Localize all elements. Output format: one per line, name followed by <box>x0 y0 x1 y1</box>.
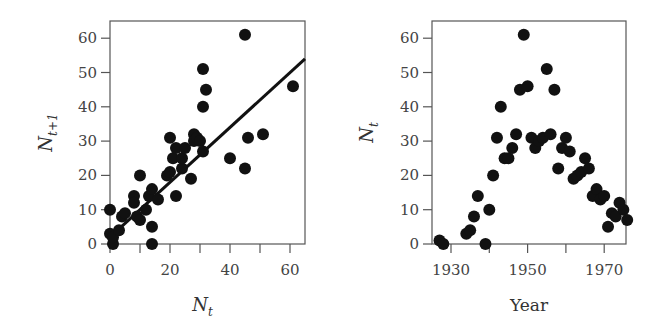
x-tick-label: 40 <box>220 261 239 279</box>
data-point <box>176 163 188 175</box>
data-point <box>176 152 188 164</box>
data-point <box>621 214 633 226</box>
data-point <box>197 101 209 113</box>
data-point <box>185 173 197 185</box>
data-point <box>224 152 236 164</box>
data-point <box>495 101 507 113</box>
data-point <box>200 84 212 96</box>
data-point <box>104 204 116 216</box>
data-point <box>506 142 518 154</box>
y-tick-label: 60 <box>400 29 419 47</box>
x-axis-label: Year <box>509 295 549 315</box>
data-point <box>128 197 140 209</box>
data-point <box>164 132 176 144</box>
data-point <box>170 190 182 202</box>
data-point <box>583 163 595 175</box>
y-tick-label: 0 <box>87 235 97 253</box>
y-tick-label: 60 <box>78 29 97 47</box>
data-point <box>472 190 484 202</box>
x-tick-label: 20 <box>160 261 179 279</box>
data-point <box>552 163 564 175</box>
data-point <box>239 163 251 175</box>
y-axis-label: Nt <box>356 122 381 144</box>
y-tick-label: 20 <box>78 166 97 184</box>
data-point <box>564 145 576 157</box>
data-point <box>140 204 152 216</box>
right-scatter-plot: 0102030405060193019501970YearNt <box>356 21 633 315</box>
y-axis-label: Nt+1 <box>35 113 60 152</box>
data-point <box>257 128 269 140</box>
data-point <box>197 145 209 157</box>
data-point <box>437 238 449 250</box>
data-point <box>242 132 254 144</box>
y-tick-label: 40 <box>78 98 97 116</box>
x-tick-label: 1950 <box>509 261 547 279</box>
data-point <box>134 169 146 181</box>
data-point <box>146 183 158 195</box>
data-point <box>598 190 610 202</box>
y-tick-label: 50 <box>400 64 419 82</box>
data-point <box>468 211 480 223</box>
data-point <box>487 169 499 181</box>
data-point <box>164 166 176 178</box>
data-point <box>491 132 503 144</box>
left-scatter-plot: 01020304050600204060NtNt+1 <box>35 21 305 319</box>
data-point <box>541 63 553 75</box>
data-point <box>518 29 530 41</box>
data-point <box>239 29 251 41</box>
data-point <box>113 224 125 236</box>
data-point <box>479 238 491 250</box>
data-point <box>579 152 591 164</box>
y-tick-label: 20 <box>400 166 419 184</box>
data-point <box>194 135 206 147</box>
y-tick-label: 0 <box>409 235 419 253</box>
x-axis-label: Nt <box>191 294 213 319</box>
data-point <box>464 224 476 236</box>
y-tick-label: 10 <box>400 201 419 219</box>
x-tick-label: 0 <box>105 261 115 279</box>
y-tick-label: 50 <box>78 64 97 82</box>
data-point <box>119 207 131 219</box>
data-point <box>560 132 572 144</box>
y-tick-label: 30 <box>78 132 97 150</box>
x-tick-label: 1970 <box>585 261 623 279</box>
y-tick-label: 40 <box>400 98 419 116</box>
data-point <box>287 80 299 92</box>
data-point <box>545 128 557 140</box>
y-tick-label: 30 <box>400 132 419 150</box>
figure: 01020304050600204060NtNt+1 0102030405060… <box>0 0 659 331</box>
x-tick-label: 60 <box>280 261 299 279</box>
data-point <box>146 238 158 250</box>
data-point <box>483 204 495 216</box>
data-point <box>502 152 514 164</box>
data-point <box>548 84 560 96</box>
x-tick-label: 1930 <box>432 261 470 279</box>
data-point <box>134 214 146 226</box>
data-point <box>152 193 164 205</box>
data-point <box>197 63 209 75</box>
data-point <box>510 128 522 140</box>
data-point <box>146 221 158 233</box>
y-tick-label: 10 <box>78 201 97 219</box>
data-point <box>522 80 534 92</box>
data-point <box>602 221 614 233</box>
data-point <box>617 204 629 216</box>
